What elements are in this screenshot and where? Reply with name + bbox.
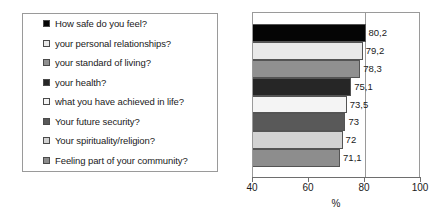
legend-swatch-icon [43,20,50,27]
bar-value-label: 78,3 [360,64,382,74]
bar-value-label: 75,1 [351,82,373,92]
legend-item[interactable]: your standard of living? [23,53,217,73]
bar-row: 80,2 [253,24,419,42]
bar-row: 72 [253,131,419,149]
legend-item-label: Your spirituality/religion? [55,136,155,146]
legend-item[interactable]: How safe do you feel? [23,14,217,34]
bar-row: 73 [253,113,419,131]
bar-row: 71,1 [253,149,419,167]
bar-value-label: 71,1 [340,153,362,163]
legend-item-label: your health? [55,78,106,88]
legend-item-label: your personal relationships? [55,39,171,49]
legend-item[interactable]: your personal relationships? [23,34,217,54]
legend-item[interactable]: Feeling part of your community? [23,151,217,171]
bar[interactable] [253,78,351,96]
legend-swatch-icon [43,157,50,164]
legend-swatch-icon [43,98,50,105]
bar-value-label: 73 [345,118,359,128]
bar-value-label: 79,2 [363,46,385,56]
bar-row: 79,2 [253,42,419,60]
legend-item-label: Your future security? [55,117,140,127]
legend-swatch-icon [43,40,50,47]
legend-item[interactable]: what you have achieved in life? [23,92,217,112]
bar[interactable] [253,131,343,149]
legend-item-label: How safe do you feel? [55,19,147,29]
bar[interactable] [253,149,340,167]
bar[interactable] [253,24,366,42]
bar-series: 80,279,278,375,173,5737271,1 [253,24,419,167]
x-axis-label: % [332,199,341,209]
legend-item-label: your standard of living? [55,58,151,68]
legend-item[interactable]: your health? [23,73,217,93]
bar-row: 75,1 [253,78,419,96]
bar-row: 73,5 [253,96,419,114]
x-axis-line [252,177,421,178]
bar-value-label: 73,5 [347,100,369,110]
x-axis-tick-label: 80 [358,183,369,193]
bar[interactable] [253,42,363,60]
bar-row: 78,3 [253,60,419,78]
x-axis-tick-label: 100 [412,183,429,193]
legend-item[interactable]: Your spirituality/religion? [23,131,217,151]
bar[interactable] [253,113,345,131]
bar[interactable] [253,96,347,114]
legend-item[interactable]: Your future security? [23,112,217,132]
bar-chart-figure: How safe do you feel?your personal relat… [0,0,442,220]
bar-value-label: 80,2 [366,28,388,38]
legend-swatch-icon [43,59,50,66]
plot-area: 80,279,278,375,173,5737271,1 [252,12,420,177]
bar-value-label: 72 [343,136,357,146]
x-axis-tick-label: 40 [246,183,257,193]
x-axis-tick-label: 60 [302,183,313,193]
legend-swatch-icon [43,79,50,86]
chart-legend: How safe do you feel?your personal relat… [22,13,218,172]
legend-swatch-icon [43,137,50,144]
legend-swatch-icon [43,118,50,125]
legend-item-label: what you have achieved in life? [55,97,184,107]
legend-item-label: Feeling part of your community? [55,156,188,166]
bar[interactable] [253,60,360,78]
